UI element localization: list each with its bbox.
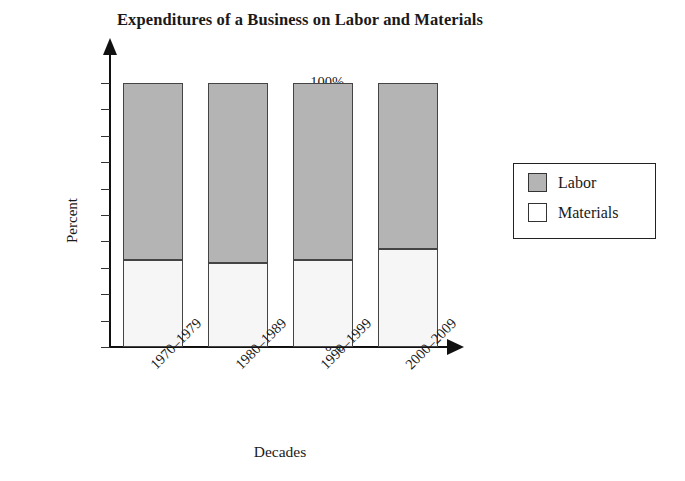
chart-title: Expenditures of a Business on Labor and … <box>0 10 600 30</box>
bar-stack <box>293 83 353 347</box>
bar-stack <box>378 83 438 347</box>
y-axis-tick <box>101 162 110 163</box>
chart-legend: Labor Materials <box>513 163 656 239</box>
y-axis-tick <box>101 136 110 137</box>
legend-item-materials: Materials <box>528 203 655 222</box>
bar-segment-materials <box>378 249 438 347</box>
y-axis-tick <box>101 109 110 110</box>
bar-stack <box>208 83 268 347</box>
y-axis-tick <box>101 268 110 269</box>
y-axis-tick <box>101 347 110 348</box>
y-axis-tick <box>101 189 110 190</box>
y-axis-title: Percent <box>64 198 81 243</box>
x-axis-title: Decades <box>110 443 450 461</box>
white-swatch-icon <box>528 203 547 222</box>
gray-swatch-icon <box>528 173 547 192</box>
bar-segment-labor <box>208 83 268 263</box>
y-axis-tick <box>101 294 110 295</box>
plot-area: 0%10%20%30%40%50%60%70%80%90%100% Percen… <box>110 83 450 347</box>
chart-figure: Expenditures of a Business on Labor and … <box>0 0 685 481</box>
y-axis-tick <box>101 321 110 322</box>
legend-item-label: Labor <box>558 175 596 191</box>
legend-item-labor: Labor <box>528 173 655 192</box>
bar-stack <box>123 83 183 347</box>
bar-segment-labor <box>293 83 353 260</box>
legend-item-label: Materials <box>558 205 618 221</box>
bar-segment-labor <box>123 83 183 260</box>
y-axis-tick <box>101 83 110 84</box>
y-axis-tick <box>101 241 110 242</box>
bar-segment-labor <box>378 83 438 249</box>
y-axis-tick <box>101 215 110 216</box>
